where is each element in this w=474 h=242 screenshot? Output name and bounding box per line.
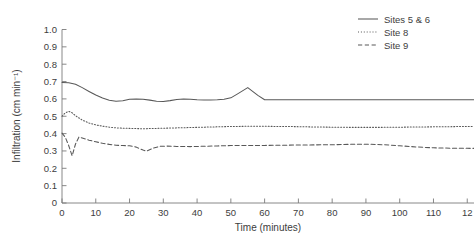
legend-label: Site 9 — [384, 40, 408, 51]
x-axis-tick-group: 010203040506070809010011012 — [59, 199, 472, 219]
x-tick-label: 100 — [392, 207, 408, 218]
y-tick-label: 0.5 — [44, 111, 57, 122]
series-line-site-9 — [62, 133, 474, 156]
chart-canvas: 00.10.20.30.40.50.60.70.80.91.0 01020304… — [0, 0, 474, 242]
infiltration-chart-figure: 00.10.20.30.40.50.60.70.80.91.0 01020304… — [0, 0, 474, 242]
x-tick-label: 12 — [462, 207, 473, 218]
y-axis-title: Infiltration (cm min⁻¹) — [11, 69, 22, 162]
x-tick-label: 80 — [327, 207, 338, 218]
legend-label: Sites 5 & 6 — [384, 14, 430, 25]
y-axis-tick-group: 00.10.20.30.40.50.60.70.80.91.0 — [44, 24, 67, 209]
x-tick-label: 110 — [426, 207, 441, 218]
x-axis-title: Time (minutes) — [235, 222, 301, 233]
y-tick-label: 0.9 — [44, 41, 57, 52]
series-line-sites-5-6 — [62, 82, 474, 101]
x-tick-label: 0 — [59, 207, 64, 218]
y-tick-label: 1.0 — [44, 24, 57, 35]
y-tick-label: 0.6 — [44, 93, 57, 104]
y-tick-label: 0.1 — [44, 180, 57, 191]
data-series-group — [62, 82, 474, 155]
x-tick-label: 50 — [226, 207, 237, 218]
y-tick-label: 0 — [52, 197, 57, 208]
x-tick-label: 60 — [259, 207, 270, 218]
x-tick-label: 10 — [90, 207, 101, 218]
x-tick-label: 70 — [293, 207, 304, 218]
y-tick-label: 0.4 — [44, 128, 57, 139]
series-line-site-8 — [62, 111, 474, 128]
x-tick-label: 20 — [124, 207, 135, 218]
x-tick-label: 40 — [192, 207, 203, 218]
y-tick-label: 0.2 — [44, 163, 57, 174]
y-tick-label: 0.7 — [44, 76, 57, 87]
legend-label: Site 8 — [384, 27, 408, 38]
y-tick-label: 0.8 — [44, 59, 57, 70]
legend: Sites 5 & 6Site 8Site 9 — [358, 14, 430, 51]
y-tick-label: 0.3 — [44, 145, 57, 156]
x-tick-label: 90 — [361, 207, 372, 218]
x-tick-label: 30 — [158, 207, 169, 218]
